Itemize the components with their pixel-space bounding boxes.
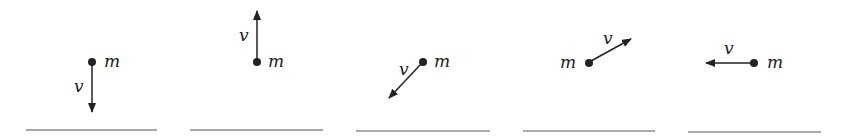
mass-label: m xyxy=(560,52,576,72)
velocity-label: v xyxy=(603,28,613,48)
panel-1: m v xyxy=(26,51,157,130)
mass-label: m xyxy=(434,51,450,71)
mass-label: m xyxy=(104,51,120,71)
mass-dot xyxy=(253,58,261,66)
mass-dot xyxy=(419,58,427,66)
panel-5: m v xyxy=(688,38,821,132)
mass-label: m xyxy=(767,52,783,72)
panel-4: m v xyxy=(523,28,655,131)
mass-dot xyxy=(585,59,593,67)
velocity-label: v xyxy=(74,76,84,96)
mass-label: m xyxy=(268,51,284,71)
physics-diagram: m v m v m v m v m v xyxy=(0,0,842,138)
mass-dot xyxy=(750,59,758,67)
panel-2: m v xyxy=(190,11,323,130)
velocity-label: v xyxy=(239,25,249,45)
panel-3: m v xyxy=(356,51,490,131)
velocity-label: v xyxy=(399,59,409,79)
velocity-label: v xyxy=(724,38,734,58)
mass-dot xyxy=(88,58,96,66)
